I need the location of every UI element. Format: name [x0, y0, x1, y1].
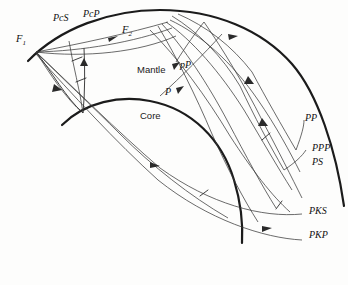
arrowhead-ppp-down	[258, 118, 268, 126]
ray-pcp-down	[36, 52, 83, 113]
phase-label-pkp: PKP	[308, 229, 328, 240]
region-label-mantle: Mantle	[137, 64, 166, 75]
arrowhead-pkp	[262, 226, 272, 232]
svg-text:F2: F2	[121, 24, 132, 38]
ray-group-surface-multiples	[150, 14, 306, 212]
focus-label-2: F2	[121, 24, 132, 38]
arrowhead-p-label	[176, 86, 184, 94]
phase-label-ps: PS	[311, 156, 323, 167]
ray-PPP-leg3	[284, 150, 306, 170]
tick-pks	[276, 201, 282, 209]
arrowhead-pp-down	[244, 76, 254, 84]
phase-label-p: P	[164, 86, 171, 97]
region-label-core: Core	[140, 110, 161, 121]
phase-label-pp: PP	[304, 112, 317, 123]
tick-ppp	[262, 133, 270, 140]
phase-label-pp-lower: pP	[179, 59, 191, 70]
phase-label-ppp: PPP	[311, 142, 330, 153]
tick-pcs	[72, 57, 82, 61]
earth-surface-arc	[28, 10, 344, 206]
ray-PP-leg2	[252, 72, 296, 150]
ray-f1-shallow-1	[36, 22, 168, 52]
ray-pp-reflect	[204, 22, 302, 198]
ray-PP-leg3	[296, 120, 304, 150]
seismic-ray-path-diagram: Mantle Core F1 F2 PcS PcP pP P PP PPP PS…	[0, 0, 348, 285]
ray-group-focus-2	[158, 20, 302, 222]
ray-pcp-up	[83, 48, 85, 113]
focus-1-subscript: 1	[22, 39, 26, 47]
arrowhead-pcp-up	[80, 58, 88, 66]
ray-group-core-phases	[36, 52, 302, 240]
arrowhead-f2-right	[228, 34, 238, 40]
arrowhead-pp-label	[172, 62, 180, 70]
phase-label-pcs: PcS	[52, 12, 69, 23]
focus-2-subscript: 2	[128, 30, 132, 38]
ray-f1-core-deep	[36, 52, 228, 218]
phase-label-pcp: PcP	[82, 8, 100, 19]
ray-pcs-up	[69, 41, 83, 113]
svg-text:F1: F1	[15, 33, 26, 47]
phase-label-pks: PKS	[308, 205, 327, 216]
focus-label-1: F1	[15, 33, 26, 47]
